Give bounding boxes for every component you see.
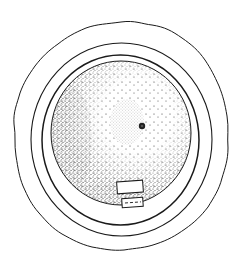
lower-rectangle-dashed (122, 197, 144, 207)
figure (0, 0, 245, 267)
cell-illustration (0, 0, 245, 267)
upper-rectangle (117, 180, 144, 194)
